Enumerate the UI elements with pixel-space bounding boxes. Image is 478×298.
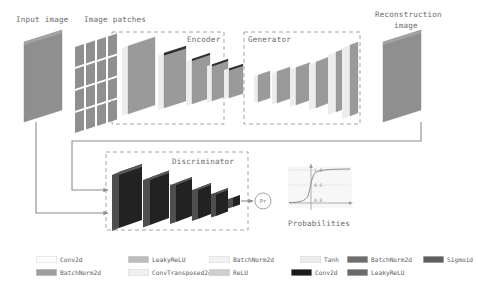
label-reconstruction-image-line1: Reconstruction (375, 10, 442, 19)
legend-label: BatchNorm2d (233, 256, 274, 263)
legend-swatch (36, 269, 57, 276)
legend-swatch (128, 256, 149, 263)
legend-row-1: Conv2dLeakyReLUBatchNorm2dTanhBatchNorm2… (0, 254, 478, 265)
legend-item: BatchNorm2d (347, 254, 412, 265)
label-probabilities: Probabilities (288, 219, 350, 228)
legend-item: Sigmoid (423, 254, 473, 265)
pr-node-label: Pr (260, 198, 267, 204)
legend-item: ReLU (209, 267, 248, 278)
reconstruction-image-block (383, 30, 421, 122)
legend-swatch (209, 269, 230, 276)
legend-swatch (209, 256, 230, 263)
legend-label: ConvTransposed2d (152, 269, 212, 276)
legend-label: BatchNorm2d (371, 256, 412, 263)
pr-node: Pr (255, 193, 271, 209)
legend-label: Tanh (324, 256, 339, 263)
legend-label: BatchNorm2d (60, 269, 101, 276)
legend-label: Conv2d (60, 256, 82, 263)
legend-row-2: BatchNorm2dConvTransposed2dReLUConv2dLea… (0, 267, 478, 278)
legend-swatch (36, 256, 57, 263)
label-reconstruction-image-line2: image (394, 21, 418, 30)
image-patches-block (75, 34, 117, 134)
legend-label: Conv2d (315, 269, 337, 276)
discriminator-layers (112, 164, 240, 231)
legend-swatch (347, 269, 368, 276)
legend-label: LeakyReLU (152, 256, 186, 263)
encoder-layers (122, 37, 243, 116)
label-encoder: Encoder (187, 35, 221, 44)
legend-swatch (423, 256, 444, 263)
legend-item: LeakyReLU (347, 267, 405, 278)
sigmoid-tick-2: 0.5 (314, 183, 323, 188)
label-input-image: Input image (16, 15, 69, 24)
legend-label: Sigmoid (447, 256, 473, 263)
legend-item: ConvTransposed2d (128, 267, 212, 278)
input-image-block (24, 30, 62, 122)
sigmoid-plot: 1.0 0.5 0.0 (288, 164, 353, 210)
legend-swatch (291, 269, 312, 276)
legend-label: ReLU (233, 269, 248, 276)
diagram-canvas: Pr 1.0 0.5 0.0 Input image Image patches… (0, 0, 478, 298)
legend-item: Tanh (300, 254, 339, 265)
label-generator: Generator (248, 35, 291, 44)
legend-swatch (300, 256, 321, 263)
legend-item: Conv2d (36, 254, 82, 265)
sigmoid-tick-1: 1.0 (314, 168, 323, 173)
sigmoid-tick-3: 0.0 (314, 198, 323, 203)
label-image-patches: Image patches (84, 15, 146, 24)
legend-item: BatchNorm2d (36, 267, 101, 278)
legend-label: LeakyReLU (371, 269, 405, 276)
label-discriminator: Discriminator (172, 157, 234, 166)
legend-item: BatchNorm2d (209, 254, 274, 265)
legend: Conv2dLeakyReLUBatchNorm2dTanhBatchNorm2… (0, 252, 478, 298)
generator-layers (254, 42, 358, 119)
legend-item: LeakyReLU (128, 254, 186, 265)
legend-swatch (128, 269, 149, 276)
legend-item: Conv2d (291, 267, 337, 278)
legend-swatch (347, 256, 368, 263)
